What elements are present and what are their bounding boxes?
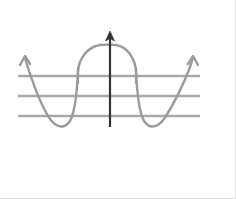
graph-canvas — [0, 0, 236, 199]
figure-root — [0, 0, 236, 199]
curve-center-hump — [78, 45, 136, 71]
